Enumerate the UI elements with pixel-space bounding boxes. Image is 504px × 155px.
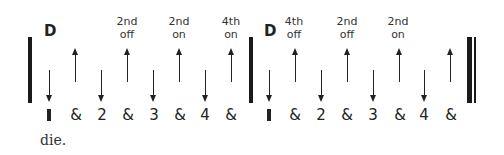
annotation-line2: on <box>159 28 199 41</box>
down-arrow-icon <box>153 70 154 97</box>
down-arrow-icon <box>424 70 425 97</box>
up-arrow-icon <box>450 53 451 82</box>
annotation-m2-3: 2nd on <box>378 15 418 41</box>
count: 4 <box>414 106 434 124</box>
count: 3 <box>144 106 164 124</box>
count: 2 <box>92 106 112 124</box>
count: & <box>337 106 357 124</box>
count: & <box>285 106 305 124</box>
annotation-m2-2: 2nd off <box>327 15 367 41</box>
end-barline-thin <box>474 37 476 103</box>
annotation-line1: 2nd <box>107 15 147 28</box>
down-arrow-icon <box>321 70 322 97</box>
annotation-line1: 2nd <box>159 15 199 28</box>
annotation-line1: 4th <box>274 15 314 28</box>
up-arrow-icon <box>179 53 180 82</box>
up-arrow-icon <box>127 53 128 82</box>
up-arrow-icon <box>347 53 348 82</box>
annotation-line1: 2nd <box>378 15 418 28</box>
annotation-line2: on <box>378 28 418 41</box>
count: & <box>170 106 190 124</box>
down-arrow-icon <box>205 70 206 97</box>
annotation-line1: 4th <box>211 15 251 28</box>
count: & <box>118 106 138 124</box>
annotation-m1-1: 2nd off <box>107 15 147 41</box>
count: & <box>221 106 241 124</box>
annotation-line2: off <box>327 28 367 41</box>
up-arrow-icon <box>231 53 232 82</box>
caption-text: die. <box>40 132 66 148</box>
annotation-m2-1: 4th off <box>274 15 314 41</box>
annotation-line2: on <box>211 28 251 41</box>
annotation-line2: off <box>107 28 147 41</box>
count: 2 <box>311 106 331 124</box>
beat-one-marker <box>47 109 51 121</box>
annotation-line1: 2nd <box>327 15 367 28</box>
count: & <box>66 106 86 124</box>
annotation-m1-2: 2nd on <box>159 15 199 41</box>
down-arrow-icon <box>373 70 374 97</box>
count: & <box>390 106 410 124</box>
down-arrow-icon <box>49 70 50 97</box>
count: 3 <box>363 106 383 124</box>
start-barline <box>28 37 32 103</box>
annotation-line2: off <box>274 28 314 41</box>
down-arrow-icon <box>101 70 102 97</box>
middle-barline <box>249 37 253 103</box>
end-barline-thick <box>467 37 472 103</box>
beat-one-marker <box>267 109 271 121</box>
down-arrow-icon <box>269 70 270 97</box>
annotation-m1-3: 4th on <box>211 15 251 41</box>
chord-symbol-m1: D <box>44 22 56 40</box>
count: & <box>441 106 461 124</box>
up-arrow-icon <box>399 53 400 82</box>
up-arrow-icon <box>75 53 76 82</box>
count: 4 <box>195 106 215 124</box>
up-arrow-icon <box>295 53 296 82</box>
